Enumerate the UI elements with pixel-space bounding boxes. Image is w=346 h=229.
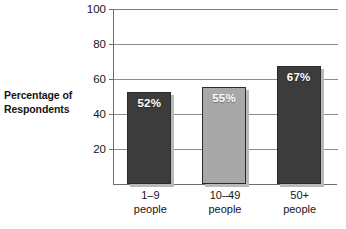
x-category-label-50-plus-people: 50+ people bbox=[262, 188, 337, 216]
bar-group-10-49-people[interactable]: 55% bbox=[202, 87, 246, 184]
bar-value-label-50-plus-people: 67% bbox=[278, 71, 320, 83]
bar-group-50-plus-people[interactable]: 67% bbox=[277, 66, 321, 184]
x-category-line-1: 50+ bbox=[290, 189, 309, 201]
bars-layer: 52% 55% 67% bbox=[114, 9, 338, 184]
x-category-line-2: people bbox=[188, 202, 263, 216]
bar-group-1-9-people[interactable]: 52% bbox=[127, 92, 171, 183]
y-tick-label-60: 60 bbox=[70, 73, 106, 85]
x-category-label-10-49-people: 10–49 people bbox=[188, 188, 263, 216]
y-axis-title-line-2: Respondents bbox=[4, 102, 100, 116]
x-axis-category-labels: 1–9 people 10–49 people 50+ people bbox=[113, 188, 337, 228]
bar-value-label-1-9-people: 52% bbox=[128, 97, 170, 109]
y-tick-label-20: 20 bbox=[70, 143, 106, 155]
bar-value-label-10-49-people: 55% bbox=[203, 92, 245, 104]
bar-1-9-people[interactable]: 52% bbox=[127, 92, 171, 183]
plot-area: 52% 55% 67% bbox=[113, 9, 337, 185]
bar-50-plus-people[interactable]: 67% bbox=[277, 66, 321, 184]
y-axis-title: Percentage of Respondents bbox=[4, 88, 100, 116]
x-category-label-1-9-people: 1–9 people bbox=[113, 188, 188, 216]
x-category-line-2: people bbox=[113, 202, 188, 216]
y-axis-title-line-1: Percentage of bbox=[4, 89, 72, 101]
y-tick-label-100: 100 bbox=[70, 3, 106, 15]
bar-chart: Percentage of Respondents 100 80 60 40 2… bbox=[0, 0, 346, 229]
x-category-line-1: 10–49 bbox=[210, 189, 241, 201]
bar-10-49-people[interactable]: 55% bbox=[202, 87, 246, 184]
y-tick-label-80: 80 bbox=[70, 38, 106, 50]
x-category-line-1: 1–9 bbox=[141, 189, 159, 201]
x-category-line-2: people bbox=[262, 202, 337, 216]
